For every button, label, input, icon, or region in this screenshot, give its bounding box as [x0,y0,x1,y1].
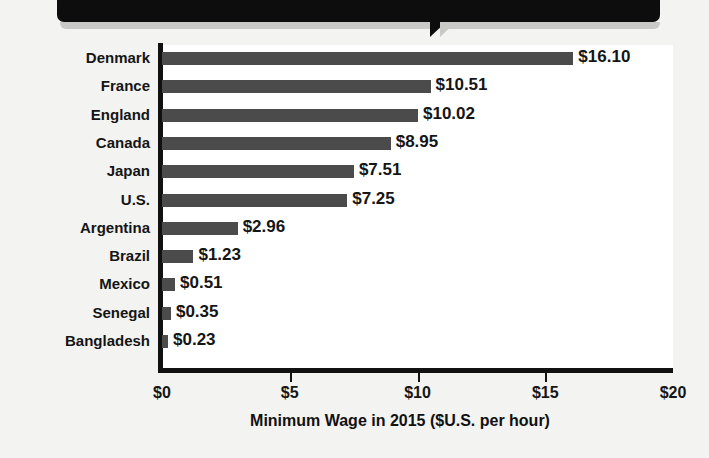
bar [162,80,431,93]
x-tick-label: $0 [132,384,192,402]
x-tick-label: $10 [388,384,448,402]
banner-tail-shadow-icon [440,22,456,37]
x-tick-mark [545,373,547,382]
bar [162,307,171,320]
banner-bubble [57,0,660,22]
category-label: England [0,108,150,121]
bar [162,165,354,178]
bar [162,109,418,122]
x-axis-line [158,368,673,373]
bar [162,222,238,235]
category-label: Denmark [0,51,150,64]
category-label: Japan [0,164,150,177]
x-tick-mark [418,373,420,382]
bar-value-label: $16.10 [578,50,630,63]
bar-value-label: $7.51 [359,163,402,176]
category-label: Mexico [0,277,150,290]
x-axis-title: Minimum Wage in 2015 ($U.S. per hour) [100,412,700,430]
category-label: Brazil [0,249,150,262]
plot-area [162,45,673,370]
category-label: Bangladesh [0,334,150,347]
bar-value-label: $7.25 [352,192,395,205]
bar [162,335,168,348]
category-label: Canada [0,136,150,149]
x-tick-label: $20 [643,384,703,402]
banner-shadow [60,22,660,29]
bar [162,137,391,150]
category-label: Argentina [0,221,150,234]
category-label: U.S. [0,193,150,206]
bar [162,250,193,263]
x-tick-label: $15 [515,384,575,402]
bar [162,52,573,65]
bar-value-label: $0.35 [176,305,219,318]
bar-value-label: $1.23 [198,248,241,261]
category-label: France [0,79,150,92]
bar-value-label: $2.96 [243,220,286,233]
x-tick-mark [290,373,292,382]
bar-value-label: $10.02 [423,107,475,120]
bar-chart: Denmark$16.10France$10.51England$10.02Ca… [0,40,709,458]
bar-value-label: $0.51 [180,276,223,289]
category-label: Senegal [0,306,150,319]
bar [162,194,347,207]
bar-value-label: $0.23 [173,333,216,346]
bar-value-label: $8.95 [396,135,439,148]
x-tick-label: $5 [260,384,320,402]
bar [162,278,175,291]
top-banner [0,0,709,40]
bar-value-label: $10.51 [436,78,488,91]
